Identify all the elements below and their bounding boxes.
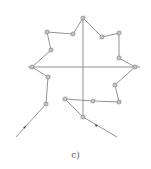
outline-bottom-left xyxy=(65,99,83,117)
outline-left xyxy=(32,18,83,104)
polygon-diagram xyxy=(0,0,151,169)
figure-caption: c) xyxy=(0,150,151,160)
outline-bottom xyxy=(65,99,93,101)
outline-right xyxy=(83,18,135,102)
lead-line xyxy=(83,117,117,137)
lead-line xyxy=(16,104,46,137)
